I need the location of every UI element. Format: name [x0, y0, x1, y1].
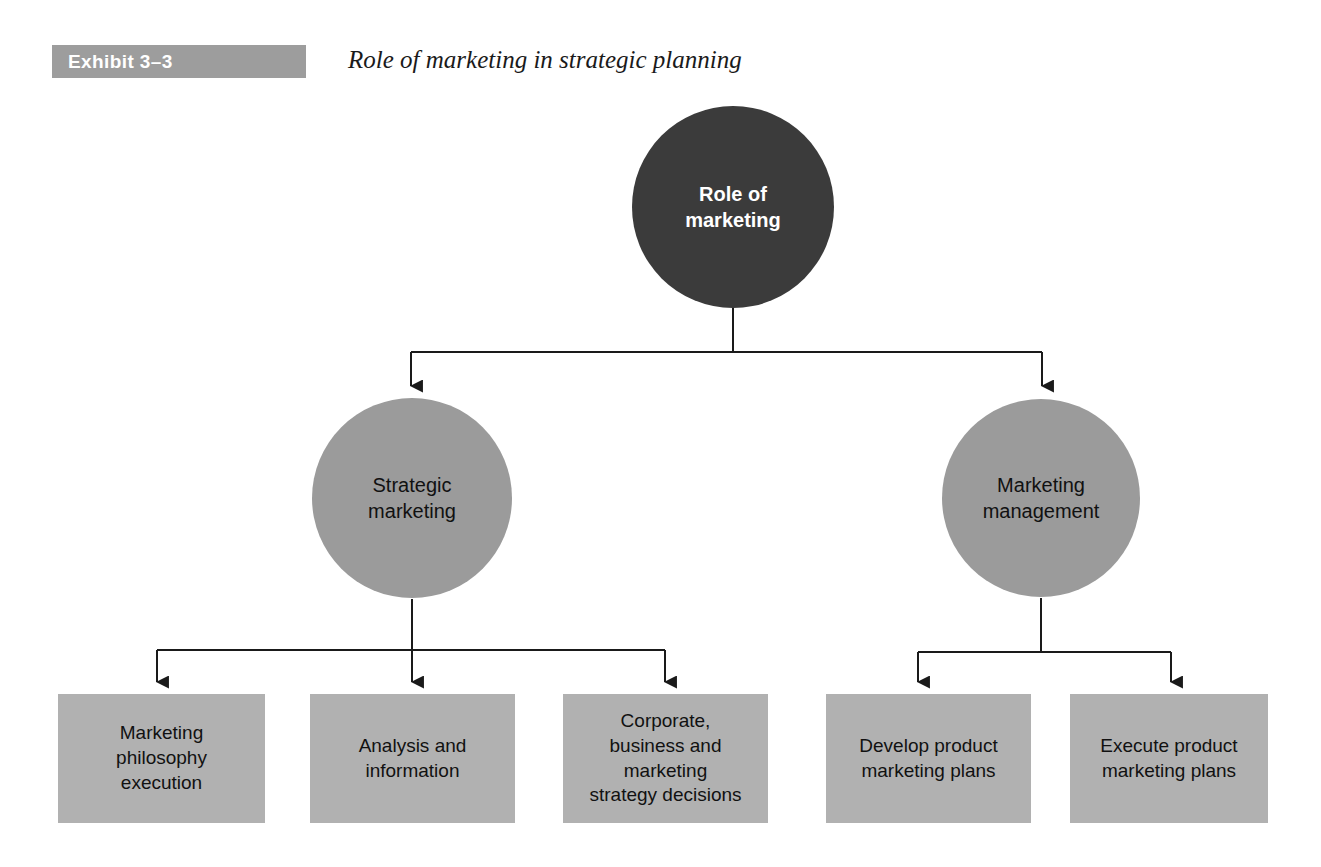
node-marketing-management-circle [942, 399, 1140, 597]
hierarchy-diagram [0, 0, 1321, 867]
node-strategic-marketing-circle [312, 398, 512, 598]
node-execute-product-marketing-plans-box [1070, 694, 1268, 823]
exhibit-page: Exhibit 3–3 Role of marketing in strateg… [0, 0, 1321, 867]
connector-strategic-to-leaves [157, 599, 665, 682]
node-analysis-and-information-box [310, 694, 515, 823]
node-develop-product-marketing-plans-box [826, 694, 1031, 823]
connector-root-to-branches [411, 308, 1042, 386]
node-corporate-strategy-decisions-box [563, 694, 768, 823]
node-marketing-philosophy-execution-box [58, 694, 265, 823]
connector-management-to-leaves [918, 598, 1171, 682]
node-root-circle [632, 106, 834, 308]
